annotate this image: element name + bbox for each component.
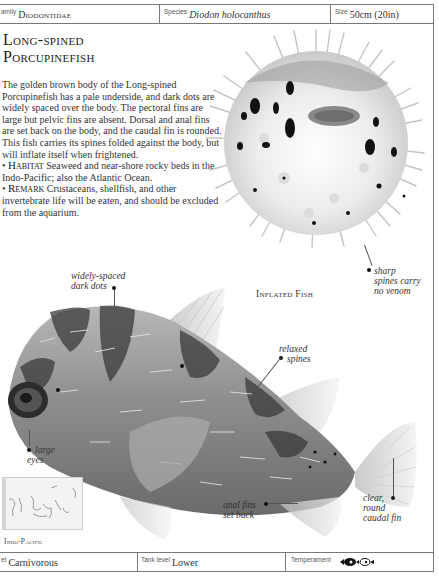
title-line-2: Porcupinefish	[3, 48, 223, 65]
species-cell: Species Diodon holocanthus	[160, 5, 331, 23]
annotation-dark-dots: widely-spaced dark dots	[71, 271, 125, 291]
annotation-dot	[367, 268, 371, 272]
tank-level-value: Lower	[172, 557, 198, 568]
header-info-bar: amily Diodontidae Species Diodon holocan…	[0, 4, 434, 24]
page-title: Long-spined Porcupinefish	[3, 31, 223, 65]
size-label: Size	[335, 8, 348, 15]
family-value: Diodontidae	[18, 9, 71, 20]
annotation-large-eyes: large eyes	[27, 445, 55, 465]
annotation-line: clear,	[363, 493, 401, 503]
species-value: Diodon holocanthus	[189, 9, 270, 20]
map-region-label: Indo-Pacific	[4, 537, 43, 546]
fish-profile-page: amily Diodontidae Species Diodon holocan…	[0, 0, 439, 577]
diet-value: Carnivorous	[8, 557, 57, 568]
leader-line	[114, 290, 115, 308]
title-line-1: Long-spined	[3, 31, 223, 48]
size-value: 50cm (20in)	[350, 9, 399, 20]
footer-info-bar: et Carnivorous Tank level Lower Temperam…	[0, 552, 434, 572]
annotation-anal-fins: anal fins set back	[223, 500, 256, 520]
distribution-map	[2, 477, 83, 530]
temperament-cell: Temperament	[286, 553, 433, 571]
annotation-line: widely-spaced	[71, 271, 125, 281]
tank-level-label: Tank level	[141, 556, 170, 563]
diet-cell: et Carnivorous	[0, 553, 138, 571]
habitat-paragraph: • Habitat Seaweed and near-shore rocky b…	[2, 160, 224, 183]
leader-line	[268, 503, 298, 504]
family-cell: amily Diodontidae	[0, 5, 160, 23]
tank-level-cell: Tank level Lower	[138, 553, 286, 571]
annotation-line: anal fins	[223, 500, 256, 510]
description-body: The golden brown body of the Long-spined…	[2, 79, 224, 160]
annotation-line: relaxed	[279, 344, 311, 354]
description: The golden brown body of the Long-spined…	[2, 79, 224, 218]
annotation-line: caudal fin	[363, 513, 401, 523]
size-cell: Size 50cm (20in)	[331, 5, 433, 23]
annotation-line: dark dots	[71, 281, 125, 291]
fish-temperament-icon	[339, 557, 375, 567]
annotation-line: eyes	[27, 455, 55, 465]
annotation-line: spines	[279, 354, 311, 364]
bullet-icon: •	[2, 160, 6, 171]
species-label: Species	[164, 8, 187, 15]
bullet-icon: •	[2, 183, 6, 194]
annotation-line: round	[363, 503, 401, 513]
annotation-caudal-fin: clear, round caudal fin	[363, 493, 401, 523]
inflated-fish-image	[204, 28, 429, 248]
leader-line	[29, 430, 30, 446]
leader-line	[393, 458, 394, 496]
temperament-label: Temperament	[291, 556, 331, 563]
remark-label: Remark	[8, 182, 44, 194]
annotation-line: set back	[223, 510, 256, 520]
family-label: amily	[1, 8, 16, 15]
habitat-label: Habitat	[8, 159, 44, 171]
remark-paragraph: • Remark Crustaceans, shellfish, and oth…	[2, 183, 224, 218]
annotation-relaxed-spines: relaxed spines	[279, 344, 311, 364]
diet-label: et	[1, 556, 6, 563]
annotation-line: large	[27, 445, 55, 455]
page-frame-line	[433, 22, 434, 553]
annotation-line: sharp	[374, 266, 421, 276]
